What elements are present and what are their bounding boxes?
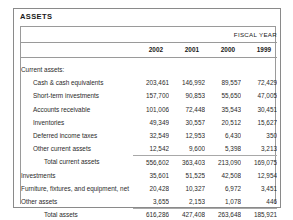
line-item-label: Current assets: — [21, 63, 133, 76]
line-item-value-2000: 20,512 — [205, 116, 241, 129]
line-item-label: Other assets — [21, 195, 133, 208]
fiscal-year-banner-row: FISCAL YEAR — [21, 27, 277, 42]
line-item-value-1999: 47,005 — [241, 89, 277, 102]
year-column-header-2000: 2000 — [205, 42, 241, 57]
statement-frame: ASSETS FISCAL YEAR2002200120001999Curren… — [13, 8, 281, 208]
line-item-value-2002: 35,601 — [133, 169, 169, 182]
table-row: Total current assets556,602363,403213,09… — [21, 155, 277, 168]
line-item-value-2001: 9,600 — [169, 142, 205, 155]
line-item-value-2000: 1,078 — [205, 195, 241, 208]
line-item-label: Cash & cash equivalents — [21, 76, 133, 89]
table-row: Cash & cash equivalents203,461146,99289,… — [21, 76, 277, 89]
table-row: Other current assets12,5429,6005,3983,21… — [21, 142, 277, 155]
line-item-value-2002: 3,655 — [133, 195, 169, 208]
assets-table-body: FISCAL YEAR2002200120001999Current asset… — [21, 27, 277, 220]
line-item-value-1999: 72,429 — [241, 76, 277, 89]
line-item-value-2002: 32,549 — [133, 129, 169, 142]
line-item-value-2002: 203,461 — [133, 76, 169, 89]
line-item-value-2001: 363,403 — [169, 155, 205, 168]
line-item-label: Other current assets — [21, 142, 133, 155]
line-item-value-1999: 350 — [241, 129, 277, 142]
table-row: Furniture, fixtures, and equipment, net2… — [21, 182, 277, 195]
line-item-value-2001: 427,408 — [169, 208, 205, 220]
line-item-label: Deferred income taxes — [21, 129, 133, 142]
line-item-value-1999: 12,954 — [241, 169, 277, 182]
line-item-value-2000: 42,508 — [205, 169, 241, 182]
line-item-label: Total assets — [21, 208, 133, 220]
line-item-value-2001: 146,992 — [169, 76, 205, 89]
line-item-value-2002: 616,286 — [133, 208, 169, 220]
line-item-value-2001: 90,853 — [169, 89, 205, 102]
line-item-value-2002: 101,006 — [133, 103, 169, 116]
line-item-value-2002: 556,602 — [133, 155, 169, 168]
fiscal-year-label: FISCAL YEAR — [133, 27, 277, 42]
line-item-value-1999: 3,213 — [241, 142, 277, 155]
balance-sheet-assets-screenshot: ASSETS FISCAL YEAR2002200120001999Curren… — [0, 0, 293, 220]
line-item-value-1999: 169,075 — [241, 155, 277, 168]
year-column-header-2002: 2002 — [133, 42, 169, 57]
section-caption-assets: ASSETS — [14, 9, 280, 25]
line-item-value-2001 — [169, 63, 205, 76]
line-item-value-2002 — [133, 63, 169, 76]
year-column-header-2001: 2001 — [169, 42, 205, 57]
line-item-value-1999: 446 — [241, 195, 277, 208]
line-item-value-2001: 12,953 — [169, 129, 205, 142]
line-item-value-1999: 185,921 — [241, 208, 277, 220]
line-item-value-2001: 72,448 — [169, 103, 205, 116]
year-column-header-1999: 1999 — [241, 42, 277, 57]
line-item-value-2001: 10,327 — [169, 182, 205, 195]
table-row: Accounts receivable101,00672,44835,54330… — [21, 103, 277, 116]
line-item-value-2002: 12,542 — [133, 142, 169, 155]
assets-table-container: FISCAL YEAR2002200120001999Current asset… — [20, 26, 276, 204]
line-item-label: Short-term investments — [21, 89, 133, 102]
line-item-value-2002: 157,700 — [133, 89, 169, 102]
line-item-value-2000: 5,398 — [205, 142, 241, 155]
line-item-value-2002: 20,428 — [133, 182, 169, 195]
line-item-label: Investments — [21, 169, 133, 182]
table-row: Other assets3,6552,1531,078446 — [21, 195, 277, 208]
table-row: Deferred income taxes32,54912,9536,43035… — [21, 129, 277, 142]
line-item-value-2000: 6,430 — [205, 129, 241, 142]
line-item-label: Furniture, fixtures, and equipment, net — [21, 182, 133, 195]
line-item-value-2001: 2,153 — [169, 195, 205, 208]
line-item-value-2000 — [205, 63, 241, 76]
table-row: Inventories49,34930,55720,51215,627 — [21, 116, 277, 129]
line-item-label: Inventories — [21, 116, 133, 129]
line-item-value-1999 — [241, 63, 277, 76]
line-item-value-1999: 30,451 — [241, 103, 277, 116]
assets-table: FISCAL YEAR2002200120001999Current asset… — [21, 27, 277, 220]
table-row: Total assets616,286427,408263,648185,921 — [21, 208, 277, 220]
line-item-value-2000: 213,090 — [205, 155, 241, 168]
line-item-value-2002: 49,349 — [133, 116, 169, 129]
line-item-label: Accounts receivable — [21, 103, 133, 116]
line-item-value-2000: 35,543 — [205, 103, 241, 116]
year-header-row: 2002200120001999 — [21, 42, 277, 57]
table-row: Investments35,60151,52542,50812,954 — [21, 169, 277, 182]
table-row: Current assets: — [21, 63, 277, 76]
line-item-value-1999: 15,627 — [241, 116, 277, 129]
line-item-column-header — [21, 42, 133, 57]
fiscal-year-spacer — [21, 27, 133, 42]
line-item-value-2000: 263,648 — [205, 208, 241, 220]
line-item-value-2000: 89,557 — [205, 76, 241, 89]
line-item-label: Total current assets — [21, 155, 133, 168]
line-item-value-2001: 51,525 — [169, 169, 205, 182]
table-row: Short-term investments157,70090,85355,65… — [21, 89, 277, 102]
line-item-value-2000: 55,650 — [205, 89, 241, 102]
line-item-value-2000: 6,972 — [205, 182, 241, 195]
line-item-value-2001: 30,557 — [169, 116, 205, 129]
line-item-value-1999: 3,451 — [241, 182, 277, 195]
